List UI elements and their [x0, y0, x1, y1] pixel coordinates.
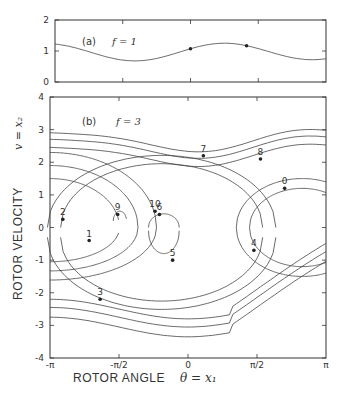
point-label-0: 0 — [282, 176, 288, 186]
loop-top — [61, 164, 263, 228]
point-label-4: 4 — [251, 238, 257, 248]
panel-b-label: (b) — [82, 116, 96, 127]
point-label-9: 9 — [115, 202, 121, 212]
point-label-1: 1 — [86, 229, 92, 239]
point-marker-6 — [158, 213, 162, 217]
panel-b-xtick-label: -π/2 — [110, 360, 127, 370]
panel-a-param: f = 1 — [111, 36, 137, 47]
panel-a-ytick-label: 2 — [43, 15, 49, 25]
panel-a-frame — [55, 20, 326, 82]
arc-bottom — [50, 228, 138, 271]
lower-trajectory — [50, 252, 326, 328]
panel-a-marker — [245, 44, 249, 48]
panel-a-label: (a) — [82, 36, 96, 47]
point-marker-2 — [61, 218, 65, 222]
panel-a: 012 (a) f = 1 — [43, 15, 326, 87]
panel-b-ytick-label: 3 — [38, 125, 44, 135]
panel-a-ytick-label: 0 — [43, 77, 49, 87]
panel-b-param: f = 3 — [115, 116, 141, 127]
panel-b-xtick-label: -π — [46, 360, 55, 370]
point-marker-5 — [171, 258, 175, 262]
panel-b-xtick-label: π — [323, 360, 329, 370]
panel-b-xtick-label: π/2 — [250, 360, 264, 370]
point-marker-1 — [87, 239, 91, 243]
arc-bottom — [50, 233, 119, 262]
upper-trajectory — [50, 130, 326, 152]
arc-top — [50, 153, 157, 228]
upper-trajectory — [50, 136, 326, 158]
panel-b-ytick-label: 0 — [38, 223, 44, 233]
panel-b-ytick-label: -1 — [35, 255, 44, 265]
small-loop-top — [149, 214, 180, 228]
arc-bottom — [50, 228, 157, 281]
panel-b-ytick-label: 2 — [38, 157, 44, 167]
x-axis-math: θ = x₁ — [180, 371, 217, 385]
point-label-2: 2 — [60, 207, 66, 217]
panel-b-ytick-label: -2 — [35, 288, 44, 298]
panel-b-ytick-label: -3 — [35, 320, 44, 330]
point-marker-10 — [153, 209, 157, 213]
panel-a-marker — [189, 47, 193, 51]
panel-b-ytick-label: 4 — [38, 92, 44, 102]
right-loop-top — [250, 188, 327, 227]
x-axis-label: ROTOR ANGLE — [73, 371, 165, 385]
point-label-5: 5 — [170, 248, 176, 258]
point-label-10: 10 — [149, 199, 161, 209]
point-marker-7 — [202, 154, 206, 158]
panel-b-ytick-label: 1 — [38, 190, 44, 200]
loop-bottom — [47, 237, 276, 309]
upper-trajectory — [50, 144, 326, 166]
panel-b: -4-3-2-101234 -π-π/20π/2π (b) f = 3 0123… — [35, 92, 329, 370]
loop-top — [47, 155, 276, 227]
point-label-7: 7 — [201, 144, 207, 154]
point-label-8: 8 — [258, 147, 264, 157]
y-axis-label: ROTOR VELOCITY — [11, 187, 25, 300]
figure: 012 (a) f = 1 -4-3-2-101234 -π-π/20π/2π … — [0, 0, 343, 401]
point-marker-0 — [283, 187, 287, 191]
loop9-top — [113, 211, 126, 221]
panel-b-xtick-label: 0 — [185, 360, 191, 370]
point-marker-8 — [259, 157, 263, 161]
point-label-3: 3 — [97, 287, 103, 297]
panel-a-ytick-label: 1 — [43, 46, 49, 56]
loop-bottom — [61, 237, 263, 301]
point-marker-9 — [116, 213, 120, 217]
panel-b-ytick-label: -4 — [35, 353, 44, 363]
point-marker-4 — [252, 249, 256, 253]
point-marker-3 — [98, 297, 102, 301]
y-axis-math: v = x₂ — [12, 117, 25, 150]
